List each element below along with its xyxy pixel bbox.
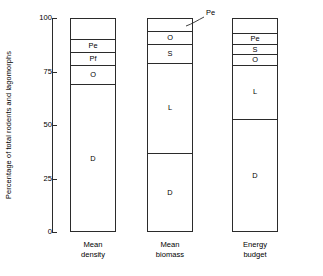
stacked-bar-chart: Percentage of total rodents and lagomorp… bbox=[0, 0, 323, 276]
annotation-leader-line bbox=[0, 0, 323, 276]
